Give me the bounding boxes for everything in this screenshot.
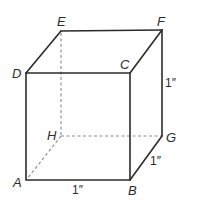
vertex-label-b: B: [128, 183, 137, 198]
dimension-label-bg: 1″: [150, 154, 162, 168]
dimension-label-ab: 1″: [72, 183, 84, 197]
vertex-label-a: A: [12, 175, 22, 190]
front-face: [26, 73, 130, 180]
edge-fc: [130, 30, 162, 73]
cube-diagram: E F D C H G A B 1″ 1″ 1″: [0, 0, 197, 202]
vertex-label-e: E: [57, 14, 66, 29]
edge-ef: [61, 30, 162, 31]
dimension-label-fg: 1″: [165, 76, 177, 90]
vertex-label-g: G: [166, 130, 176, 145]
vertex-label-d: D: [12, 66, 21, 81]
vertex-label-f: F: [157, 14, 166, 29]
edge-de: [26, 31, 61, 73]
vertex-label-c: C: [120, 57, 130, 72]
vertex-label-h: H: [47, 128, 57, 143]
